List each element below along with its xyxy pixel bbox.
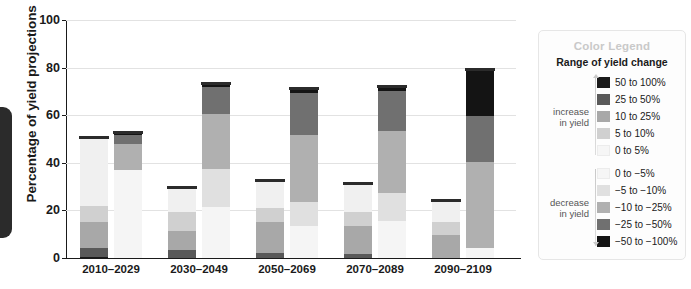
bar-segment [378, 193, 406, 222]
legend-item[interactable]: 0 to 5% [539, 142, 685, 159]
y-axis-line [66, 20, 67, 258]
y-axis-title: Percentage of yield projections [24, 13, 39, 203]
bar-total-cap [113, 131, 143, 134]
legend-swatch [597, 111, 610, 122]
stacked-bar-decrease[interactable] [290, 90, 318, 258]
bar-segment [202, 87, 230, 114]
bar-total-cap [255, 179, 285, 182]
bar-segment [168, 212, 196, 231]
y-axis-tick-mark [62, 20, 66, 21]
legend-item[interactable]: −25 to −50% [539, 216, 685, 233]
plot-area: 020406080100 2010–20292030–20492050–2069… [66, 20, 516, 258]
bar-segment [466, 71, 494, 116]
bar-segment [202, 114, 230, 169]
legend-swatch [597, 128, 610, 139]
stacked-bar-increase[interactable] [432, 202, 460, 258]
stacked-bar-increase[interactable] [256, 182, 284, 258]
stacked-bar-increase[interactable] [80, 139, 108, 258]
legend-side-label: decreasein yield [541, 197, 589, 219]
bar-total-cap [79, 136, 109, 139]
legend-item[interactable]: 0 to −5% [539, 165, 685, 182]
bar-segment [80, 257, 108, 258]
bar-segment [290, 202, 318, 226]
bar-segment [466, 162, 494, 249]
y-axis-tick-label: 0 [53, 251, 60, 265]
bar-segment [168, 250, 196, 258]
x-axis-line [66, 258, 521, 259]
legend-item-label: −5 to −10% [615, 185, 666, 196]
legend-swatch [597, 145, 610, 156]
bar-segment [290, 226, 318, 258]
bar-segment [202, 169, 230, 207]
legend-swatch [597, 219, 610, 230]
bar-group: 2070–2089 [344, 20, 428, 258]
legend-side-label: increasein yield [541, 106, 589, 128]
legend-item-label: 0 to 5% [615, 145, 649, 156]
bar-segment [168, 189, 196, 212]
x-axis-category-label: 2010–2029 [82, 263, 140, 275]
legend-item-label: 5 to 10% [615, 128, 654, 139]
bar-group: 2050–2069 [256, 20, 340, 258]
color-legend: Color Legend Range of yield change 50 to… [538, 30, 686, 260]
bar-group: 2030–2049 [168, 20, 252, 258]
bar-total-cap [377, 85, 407, 88]
legend-item[interactable]: 50 to 100% [539, 74, 685, 91]
stacked-bar-increase[interactable] [168, 189, 196, 258]
bar-segment [466, 116, 494, 161]
stacked-bar-decrease[interactable] [378, 88, 406, 258]
legend-item-label: 10 to 25% [615, 111, 660, 122]
y-axis-tick-label: 80 [46, 61, 60, 75]
bar-segment [466, 248, 494, 258]
bar-group: 2010–2029 [80, 20, 164, 258]
legend-subtitle: Range of yield change [539, 56, 685, 68]
bar-segment [80, 139, 108, 206]
bar-segment [114, 170, 142, 258]
bar-segment [290, 135, 318, 202]
bar-segment [432, 202, 460, 222]
legend-swatch [597, 185, 610, 196]
y-axis-tick-mark [62, 115, 66, 116]
bar-segment [290, 93, 318, 136]
x-axis-category-label: 2090–2109 [434, 263, 492, 275]
legend-swatch [597, 168, 610, 179]
legend-swatch [597, 77, 610, 88]
stacked-bar-decrease[interactable] [114, 134, 142, 258]
yield-projection-chart: Percentage of yield projections 02040608… [0, 0, 530, 289]
bar-segment [256, 182, 284, 208]
legend-swatch [597, 236, 610, 247]
y-axis-tick-mark [62, 163, 66, 164]
y-axis-tick-label: 40 [46, 156, 60, 170]
legend-item-label: 0 to −5% [615, 168, 655, 179]
bar-segment [432, 235, 460, 258]
bar-segment [256, 222, 284, 253]
legend-swatch [597, 94, 610, 105]
y-axis-tick-label: 60 [46, 108, 60, 122]
y-axis-tick-mark [62, 258, 66, 259]
stacked-bar-decrease[interactable] [202, 85, 230, 258]
bar-total-cap [201, 82, 231, 85]
y-axis-tick-label: 20 [46, 203, 60, 217]
stacked-bar-increase[interactable] [344, 185, 372, 258]
bar-segment [344, 254, 372, 258]
stacked-bar-decrease[interactable] [466, 71, 494, 258]
y-axis-tick-mark [62, 210, 66, 211]
y-axis-tick-label: 100 [39, 13, 60, 27]
bar-segment [168, 231, 196, 250]
legend-item-label: 25 to 50% [615, 94, 660, 105]
x-axis-category-label: 2070–2089 [346, 263, 404, 275]
bar-segment [378, 91, 406, 130]
bar-segment [256, 208, 284, 222]
bar-group: 2090–2109 [432, 20, 516, 258]
bar-segment [344, 185, 372, 211]
y-axis-tick-mark [62, 68, 66, 69]
legend-item-label: −25 to −50% [615, 219, 672, 230]
bar-segment [114, 144, 142, 170]
legend-arrow-down-icon [593, 242, 599, 246]
legend-item-label: 50 to 100% [615, 77, 666, 88]
bar-total-cap [431, 199, 461, 202]
legend-swatch [597, 202, 610, 213]
bar-segment [202, 207, 230, 258]
legend-item[interactable]: 5 to 10% [539, 125, 685, 142]
legend-item[interactable]: −50 to −100% [539, 233, 685, 250]
legend-item-label: −50 to −100% [615, 236, 677, 247]
